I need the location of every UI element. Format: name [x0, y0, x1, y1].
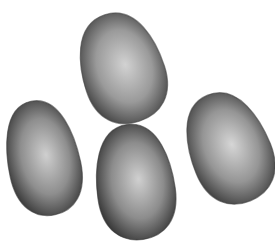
eggs-illustration [0, 0, 275, 245]
top-egg [66, 2, 179, 134]
bottom-egg [88, 119, 181, 245]
egg-group [0, 2, 275, 245]
right-egg [171, 80, 275, 216]
left-egg [0, 94, 90, 222]
